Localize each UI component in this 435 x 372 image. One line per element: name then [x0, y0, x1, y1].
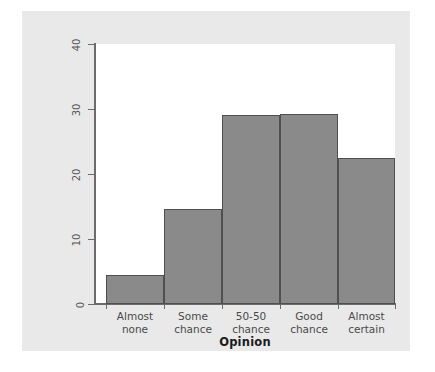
y-tick-30: 30 [88, 109, 95, 110]
x-tick-0 [106, 304, 107, 309]
x-tick-2 [222, 304, 223, 309]
x-tick-label-good-chance: Good chance [280, 310, 338, 336]
bar-50-50-chance[interactable] [222, 115, 280, 304]
y-tick-0: 0 [88, 304, 95, 305]
chart-panel: 0 10 20 30 40 Almost none Some chance 50… [22, 11, 410, 351]
x-tick-3 [280, 304, 281, 309]
y-tick-20: 20 [88, 174, 95, 175]
y-tick-label-10: 10 [73, 233, 83, 246]
y-tick-label-30: 30 [73, 103, 83, 116]
y-tick-10: 10 [88, 239, 95, 240]
y-tick-label-20: 20 [73, 168, 83, 181]
bar-almost-none[interactable] [106, 275, 164, 304]
y-tick-40: 40 [88, 44, 95, 45]
x-tick-5 [395, 304, 396, 309]
bar-some-chance[interactable] [164, 209, 222, 304]
x-tick-1 [164, 304, 165, 309]
x-tick-label-almost-certain: Almost certain [338, 310, 395, 336]
bar-good-chance[interactable] [280, 114, 338, 304]
bar-almost-certain[interactable] [338, 158, 395, 304]
x-tick-4 [338, 304, 339, 309]
figure-canvas: 0 10 20 30 40 Almost none Some chance 50… [0, 0, 435, 372]
x-tick-label-some-chance: Some chance [164, 310, 222, 336]
x-tick-label-almost-none: Almost none [106, 310, 164, 336]
y-tick-label-0: 0 [76, 301, 86, 307]
x-axis-title: Opinion [95, 335, 395, 349]
x-tick-label-50-50-chance: 50-50 chance [222, 310, 280, 336]
y-tick-label-40: 40 [73, 38, 83, 51]
